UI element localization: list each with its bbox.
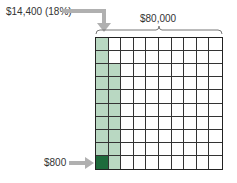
grid-cell <box>197 64 210 77</box>
grid-cell <box>209 64 222 77</box>
grid-cell <box>121 156 134 169</box>
grid-cell <box>109 117 122 130</box>
grid-cell <box>109 143 122 156</box>
grid-cell <box>146 90 159 103</box>
unit-cell <box>96 156 109 169</box>
grid-cell <box>121 38 134 51</box>
arrow-head-down-icon <box>97 23 111 32</box>
grid-cell <box>172 90 185 103</box>
grid-cell <box>146 130 159 143</box>
grid-cell <box>121 117 134 130</box>
grid-cell <box>184 77 197 90</box>
grid-cell <box>96 104 109 117</box>
grid-cell <box>172 156 185 169</box>
grid-cell <box>197 156 210 169</box>
grid-cell <box>121 51 134 64</box>
grid-cell <box>159 90 172 103</box>
grid-cell <box>172 143 185 156</box>
grid-cell <box>134 77 147 90</box>
grid-cell <box>172 51 185 64</box>
grid-cell <box>134 117 147 130</box>
arrow-head-right-icon <box>85 157 94 169</box>
grid-cell <box>209 117 222 130</box>
grid-cell <box>109 38 122 51</box>
grid-cell <box>134 143 147 156</box>
grid-cell <box>159 130 172 143</box>
grid-cell <box>159 143 172 156</box>
bent-arrow-icon <box>62 11 104 24</box>
grid-cell <box>134 90 147 103</box>
grid-cell <box>209 143 222 156</box>
grid-cell <box>96 130 109 143</box>
grid-cell <box>184 64 197 77</box>
grid-cell <box>96 117 109 130</box>
brace-icon <box>96 26 222 34</box>
grid-cell <box>197 90 210 103</box>
grid-cell <box>109 156 122 169</box>
grid-cell <box>96 90 109 103</box>
grid-cell <box>121 143 134 156</box>
grid-cell <box>172 77 185 90</box>
grid-cell <box>109 64 122 77</box>
grid-cell <box>159 38 172 51</box>
grid-cell <box>184 51 197 64</box>
grid-cell <box>197 77 210 90</box>
grid-cell <box>197 130 210 143</box>
grid-cell <box>159 51 172 64</box>
grid-cell <box>172 117 185 130</box>
grid-cell <box>172 64 185 77</box>
grid-cell <box>184 130 197 143</box>
grid-cell <box>134 51 147 64</box>
grid-cell <box>96 77 109 90</box>
grid-cell <box>146 117 159 130</box>
grid-cell <box>197 38 210 51</box>
grid-cell <box>109 51 122 64</box>
grid-cell <box>121 77 134 90</box>
grid-cell <box>146 38 159 51</box>
grid-cell <box>109 104 122 117</box>
grid-cell <box>172 130 185 143</box>
grid-cell <box>184 90 197 103</box>
grid-cell <box>197 51 210 64</box>
grid-cell <box>159 117 172 130</box>
grid-cell <box>146 64 159 77</box>
grid-cell <box>146 51 159 64</box>
grid-cell <box>146 156 159 169</box>
grid-cell <box>184 143 197 156</box>
grid-cell <box>134 156 147 169</box>
grid-cell <box>209 130 222 143</box>
grid-cell <box>209 51 222 64</box>
grid-cell <box>172 104 185 117</box>
grid-cell <box>121 90 134 103</box>
grid-cell <box>159 77 172 90</box>
hundred-grid <box>95 37 223 170</box>
grid-cell <box>197 104 210 117</box>
grid-cell <box>209 104 222 117</box>
grid-cell <box>109 90 122 103</box>
grid-cell <box>109 130 122 143</box>
grid-cell <box>184 156 197 169</box>
grid-cell <box>134 38 147 51</box>
grid-cell <box>209 77 222 90</box>
grid-cell <box>159 156 172 169</box>
grid-cell <box>134 104 147 117</box>
grid-cell <box>209 90 222 103</box>
grid-cell <box>172 38 185 51</box>
grid-cell <box>146 77 159 90</box>
grid-cell <box>96 143 109 156</box>
grid-cell <box>121 64 134 77</box>
grid-cell <box>184 104 197 117</box>
grid-cell <box>197 143 210 156</box>
grid-cell <box>134 64 147 77</box>
grid-cell <box>146 143 159 156</box>
grid-cell <box>146 104 159 117</box>
grid-cell <box>184 38 197 51</box>
grid-cell <box>209 156 222 169</box>
grid-cell <box>121 130 134 143</box>
grid-cell <box>96 38 109 51</box>
grid-cell <box>197 117 210 130</box>
grid-cell <box>134 130 147 143</box>
grid-cell <box>109 77 122 90</box>
grid-cell <box>159 104 172 117</box>
grid-cell <box>96 64 109 77</box>
